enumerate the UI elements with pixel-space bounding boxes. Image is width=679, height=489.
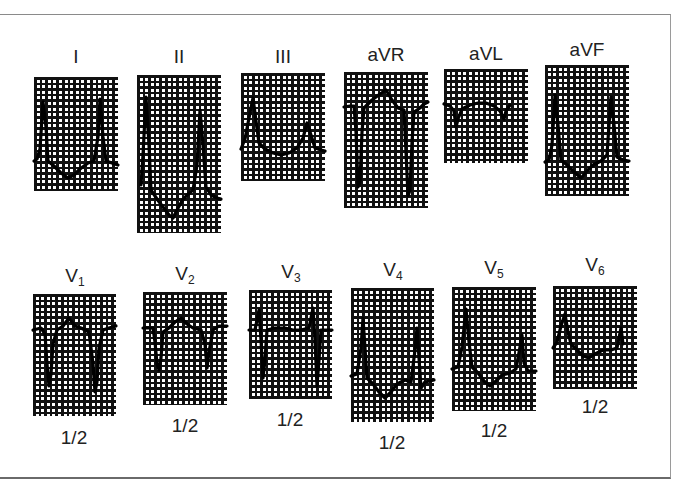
ecg-strip-V5 — [452, 287, 536, 411]
lead-label-V3: V3 — [241, 262, 341, 282]
lead-label-II: II — [129, 47, 229, 67]
lead-label-V2: V2 — [135, 264, 235, 284]
calibration-V5: 1/2 — [464, 421, 524, 441]
calibration-V4: 1/2 — [362, 433, 422, 453]
ecg-trace-V1 — [33, 294, 116, 416]
ecg-strip-V6 — [553, 286, 637, 389]
lead-label-V6: V6 — [545, 255, 645, 275]
lead-label-III: III — [233, 47, 333, 67]
calibration-V6: 1/2 — [565, 397, 625, 417]
ecg-trace-V6 — [553, 286, 637, 389]
ecg-trace-V2 — [143, 292, 227, 405]
ecg-trace-V5 — [452, 287, 536, 411]
ecg-trace-aVL — [444, 69, 528, 163]
ecg-strip-aVF — [545, 65, 629, 196]
calibration-V3: 1/2 — [260, 410, 320, 430]
ecg-strip-V3 — [249, 290, 332, 399]
lead-label-V1: V1 — [25, 266, 125, 286]
ecg-strip-V2 — [143, 292, 227, 405]
lead-label-V5: V5 — [444, 258, 544, 278]
ecg-strip-V4 — [351, 288, 434, 422]
ecg-trace-I — [34, 77, 118, 191]
calibration-V1: 1/2 — [44, 428, 104, 448]
ecg-strip-II — [137, 75, 221, 233]
lead-label-aVL: aVL — [436, 44, 536, 64]
lead-label-I: I — [26, 47, 126, 67]
ecg-strip-aVR — [344, 72, 428, 208]
ecg-strip-I — [34, 77, 118, 191]
calibration-V2: 1/2 — [155, 416, 215, 436]
ecg-trace-aVR — [344, 72, 428, 208]
ecg-trace-II — [137, 75, 221, 233]
ecg-strip-III — [241, 73, 325, 181]
ecg-trace-V3 — [249, 290, 332, 399]
lead-label-aVF: aVF — [537, 40, 637, 60]
ecg-trace-III — [241, 73, 325, 181]
lead-label-aVR: aVR — [336, 45, 436, 65]
ecg-strip-aVL — [444, 69, 528, 163]
lead-label-V4: V4 — [343, 260, 443, 280]
ecg-trace-aVF — [545, 65, 629, 196]
ecg-strip-V1 — [33, 294, 116, 416]
ecg-trace-V4 — [351, 288, 434, 422]
